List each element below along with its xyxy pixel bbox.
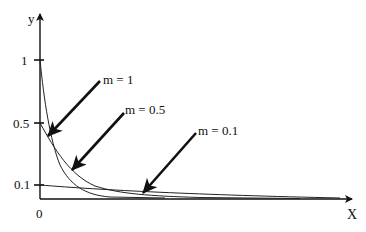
origin-label: 0 <box>36 206 43 221</box>
arrow-m-1 <box>48 81 100 136</box>
curve-m-01 <box>40 185 340 198</box>
y-tick-label-01: 0.1 <box>14 177 30 192</box>
y-tick-label-05: 0.5 <box>13 116 29 131</box>
annotation-m-1: m = 1 <box>103 72 133 87</box>
y-axis-label: y <box>28 11 35 26</box>
arrow-m-05 <box>72 113 124 170</box>
annotation-m-01: m = 0.1 <box>198 123 238 138</box>
x-axis-label: X <box>347 207 357 222</box>
chart: y X 0 1 0.5 0.1 m = 1 m = 0.5 m = 0.1 <box>0 0 366 232</box>
annotation-m-05: m = 0.5 <box>125 102 165 117</box>
y-tick-label-1: 1 <box>21 53 28 68</box>
arrow-m-01 <box>143 133 196 193</box>
